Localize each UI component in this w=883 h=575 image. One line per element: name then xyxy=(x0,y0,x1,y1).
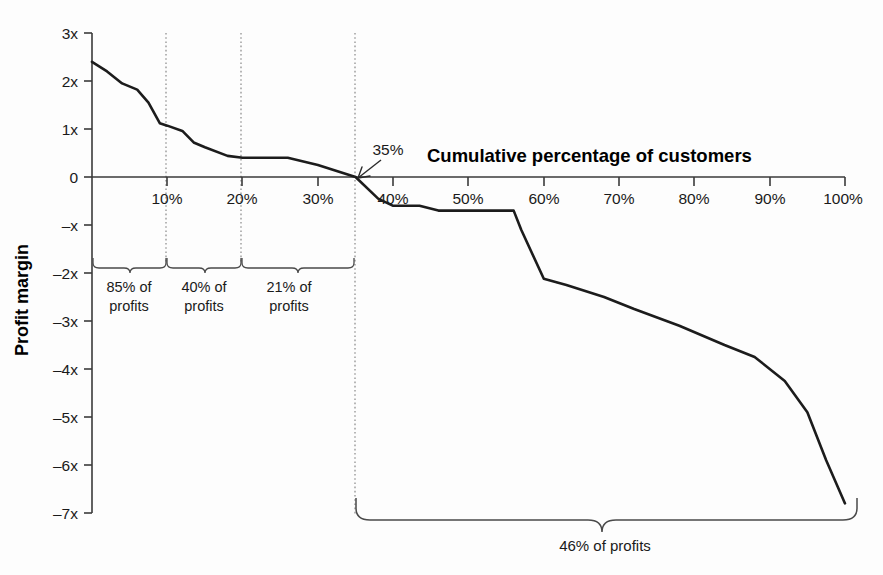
y-tick-label-2: 1x xyxy=(62,121,79,138)
brace-35-100-label: 46% of profits xyxy=(559,537,651,554)
brace-35-100-group: 46% of profits xyxy=(356,498,857,554)
profit-braces-group: 85% of profits 40% of profits 21% of pro… xyxy=(93,258,354,314)
chart-canvas: 3x 2x 1x 0 –x –2x –3x –4x –5x –6x –7x xyxy=(0,0,883,575)
y-tick-label-1: 2x xyxy=(62,73,79,90)
brace-10-20-path xyxy=(167,258,241,273)
brace-10-20-label-line1: 40% of xyxy=(181,279,227,295)
brace-10-20-label-line2: profits xyxy=(184,298,224,314)
y-tick-label-4: –x xyxy=(62,217,79,234)
y-tick-label-9: –6x xyxy=(53,457,78,474)
x-tick-label-5: 60% xyxy=(528,190,559,207)
brace-20-35-path xyxy=(242,258,354,273)
y-tick-label-8: –5x xyxy=(53,409,78,426)
x-tick-label-7: 80% xyxy=(678,190,709,207)
y-tick-label-5: –2x xyxy=(53,265,78,282)
brace-35-100-path xyxy=(356,498,857,532)
y-axis-tick-labels: 3x 2x 1x 0 –x –2x –3x –4x –5x –6x –7x xyxy=(53,25,78,522)
y-tick-label-6: –3x xyxy=(53,313,78,330)
annotation-35pct: 35% xyxy=(358,141,404,178)
brace-20-35-label-line1: 21% of xyxy=(266,279,312,295)
profit-margin-chart: 3x 2x 1x 0 –x –2x –3x –4x –5x –6x –7x xyxy=(0,0,883,575)
brace-0-10-path xyxy=(93,258,166,273)
guide-lines xyxy=(166,33,355,515)
x-tick-label-8: 90% xyxy=(754,190,785,207)
brace-0-10-label-line2: profits xyxy=(109,298,149,314)
x-axis-tick-labels: 10% 20% 30% 40% 50% 60% 70% 80% 90% 100% xyxy=(151,190,863,207)
annotation-35pct-label: 35% xyxy=(372,141,403,158)
x-axis-ticks xyxy=(167,177,845,186)
y-tick-label-10: –7x xyxy=(53,505,78,522)
y-axis-ticks xyxy=(84,33,92,513)
x-tick-label-2: 30% xyxy=(302,190,333,207)
x-tick-label-4: 50% xyxy=(452,190,483,207)
y-tick-label-0: 3x xyxy=(62,25,79,42)
x-tick-label-6: 70% xyxy=(603,190,634,207)
y-tick-label-7: –4x xyxy=(53,361,78,378)
x-tick-label-0: 10% xyxy=(151,190,182,207)
brace-20-35-label-line2: profits xyxy=(269,298,309,314)
y-axis-title: Profit margin xyxy=(12,244,32,356)
x-tick-label-9: 100% xyxy=(823,190,863,207)
brace-0-10-label-line1: 85% of xyxy=(106,279,152,295)
x-tick-label-1: 20% xyxy=(226,190,257,207)
chart-title: Cumulative percentage of customers xyxy=(427,145,752,166)
y-tick-label-3: 0 xyxy=(69,169,78,186)
